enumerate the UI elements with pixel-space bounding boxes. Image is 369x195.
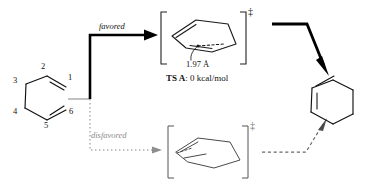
upper-ts-structure [172,20,236,52]
product-arrow-favored [272,24,329,76]
upper-bracket-left [161,12,167,64]
reactant-double-bond-inner-5-6 [50,106,64,115]
ts-a-pi-inner-bottom [190,46,212,49]
leader-dot [197,45,200,48]
reactant-double-bond-inner-1-2 [50,82,64,90]
reactant-structure [25,76,66,120]
ts-b-pi-inner-bottom [184,154,206,158]
upper-double-dagger-icon: ‡ [248,7,253,17]
ts-a-forming-bond [198,44,224,46]
atom-label-3: 3 [13,76,17,85]
product-arrowhead-favored [316,56,329,76]
atom-label-1: 1 [68,73,72,82]
lower-bracket-right [242,126,248,178]
bond-length-label: 1.97 Å [186,60,209,69]
product-bond-b [333,80,353,90]
product-bond-e [333,114,353,124]
product-bond-a [312,80,333,88]
scheme-vector-layer [0,0,369,195]
atom-label-5: 5 [44,121,48,130]
ts-a-energy-label: TS A: 0 kcal/mol [166,74,228,83]
product-bond-c [311,88,312,112]
atom-label-2: 2 [41,62,45,71]
lower-ts-structure [176,138,240,168]
favored-label: favored [99,22,125,31]
lower-bracket-left [168,126,174,178]
reactant-bond-3-4 [25,84,26,108]
reactant-bond-3-2 [26,76,47,84]
bond-length-leader [191,45,200,61]
atom-label-6: 6 [69,107,73,116]
disfavored-arrow [90,99,162,154]
reaction-scheme-figure: 1 2 3 4 5 6 favored disfavored ‡ ‡ 1.97 … [0,0,369,195]
product-arrow-disfavored [262,118,327,152]
upper-bracket-right [240,12,246,64]
disfavored-label: disfavored [91,131,127,140]
product-structure [311,76,353,124]
product-bond-d [311,112,333,124]
product-double-inner-bottom [336,110,352,119]
ts-b-ring [176,138,240,168]
reactant-bond-4-5 [25,108,47,120]
disfavored-arrowhead [152,146,162,153]
ts-a-name: TS A [166,73,185,83]
favored-arrowhead [144,30,158,41]
atom-label-4: 4 [13,107,17,116]
lower-double-dagger-icon: ‡ [250,121,255,131]
ts-a-energy: 0 kcal/mol [190,73,228,83]
favored-arrow [90,30,158,100]
